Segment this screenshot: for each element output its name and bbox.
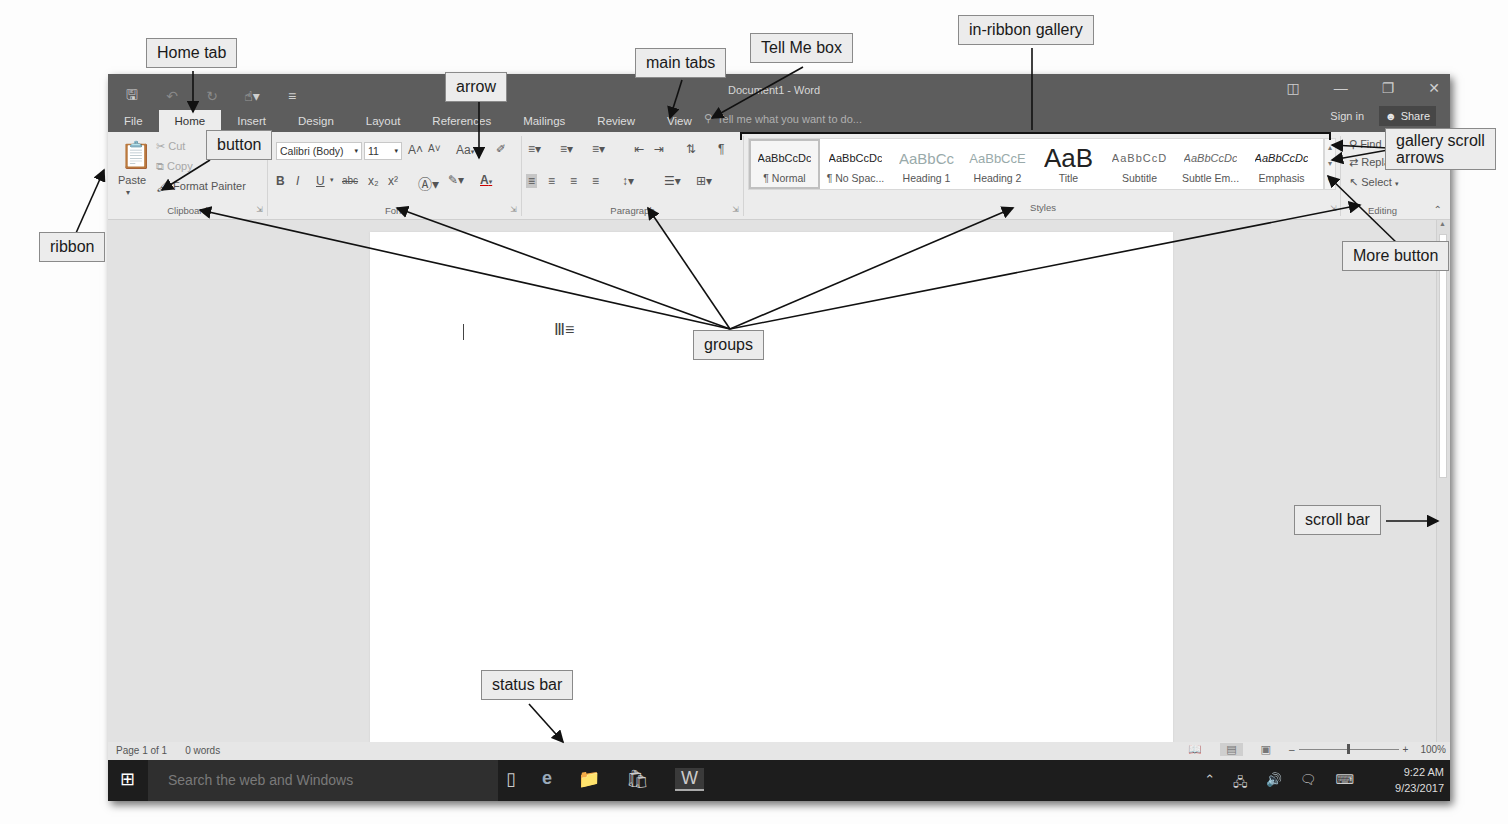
tab-review[interactable]: Review xyxy=(581,110,651,132)
align-left-icon[interactable]: ≡ xyxy=(526,174,537,188)
style-title[interactable]: AaB Title xyxy=(1033,139,1104,189)
paste-icon[interactable]: 📋 xyxy=(120,140,152,171)
ribbon-display-options-icon[interactable]: ◫ xyxy=(1286,80,1299,96)
style-subtle-emphasis[interactable]: AaBbCcDc Subtle Em... xyxy=(1175,139,1246,189)
word-count[interactable]: 0 words xyxy=(185,745,220,756)
underline-dropdown-icon[interactable]: ▾ xyxy=(330,176,334,184)
style-normal[interactable]: AaBbCcDc ¶ Normal xyxy=(749,139,820,189)
zoom-slider[interactable]: – + xyxy=(1289,744,1408,755)
network-icon[interactable]: 🖧 xyxy=(1233,772,1248,794)
redo-icon[interactable]: ↻ xyxy=(202,88,222,104)
gallery-scroll-up-icon[interactable]: ▴ xyxy=(1328,143,1332,152)
highlight-icon[interactable]: ✎▾ xyxy=(448,173,464,187)
style-emphasis[interactable]: AaBbCcDc Emphasis xyxy=(1246,139,1317,189)
tab-mailings[interactable]: Mailings xyxy=(507,110,581,132)
shading-icon[interactable]: ☰▾ xyxy=(664,174,681,188)
copy-button[interactable]: ⧉ Copy xyxy=(156,160,193,173)
paste-dropdown-icon[interactable]: ▾ xyxy=(126,188,130,197)
web-layout-icon[interactable]: ▣ xyxy=(1255,743,1277,756)
borders-icon[interactable]: ⊞▾ xyxy=(696,174,712,188)
italic-button[interactable]: I xyxy=(296,174,299,188)
bold-button[interactable]: B xyxy=(276,174,285,188)
zoom-in-icon[interactable]: + xyxy=(1403,744,1409,755)
clipboard-launcher-icon[interactable]: ⇲ xyxy=(256,205,263,214)
align-center-icon[interactable]: ≡ xyxy=(548,174,555,188)
gallery-scroll-down-icon[interactable]: ▾ xyxy=(1328,159,1332,168)
tell-me-box[interactable]: ⚲ Tell me what you want to do... xyxy=(704,112,862,125)
style-subtitle[interactable]: AaBbCcD Subtitle xyxy=(1104,139,1175,189)
font-launcher-icon[interactable]: ⇲ xyxy=(510,205,517,214)
taskbar-search-box[interactable]: Search the web and Windows xyxy=(148,760,498,801)
paste-button[interactable]: Paste xyxy=(118,174,146,186)
font-size-combo[interactable]: 11▾ xyxy=(364,142,402,160)
change-case-button[interactable]: Aa▾ xyxy=(456,143,474,157)
strikethrough-button[interactable]: abc xyxy=(342,175,358,186)
grow-font-icon[interactable]: A˄ xyxy=(408,143,423,157)
multilevel-list-icon[interactable]: ≡▾ xyxy=(592,142,605,156)
tab-layout[interactable]: Layout xyxy=(350,110,417,132)
share-button[interactable]: ☻ Share xyxy=(1379,106,1436,126)
style-heading-2[interactable]: AaBbCcE Heading 2 xyxy=(962,139,1033,189)
save-icon[interactable]: 🖫 xyxy=(122,84,142,108)
decrease-indent-icon[interactable]: ⇤ xyxy=(634,142,644,156)
store-icon[interactable]: 🛍 xyxy=(626,768,649,791)
font-name-combo[interactable]: Calibri (Body)▾ xyxy=(276,142,362,160)
zoom-knob[interactable] xyxy=(1347,744,1350,754)
shrink-font-icon[interactable]: A˅ xyxy=(428,143,441,154)
sign-in-link[interactable]: Sign in xyxy=(1330,110,1364,122)
format-painter-button[interactable]: 🖌 Format Painter xyxy=(156,180,246,193)
volume-icon[interactable]: 🔊 xyxy=(1266,772,1282,794)
print-layout-icon[interactable]: ▤ xyxy=(1220,743,1242,756)
find-button[interactable]: ⚲ Find xyxy=(1349,138,1382,151)
file-explorer-icon[interactable]: 📁 xyxy=(578,768,600,791)
underline-button[interactable]: U xyxy=(316,174,325,188)
touch-mode-icon[interactable]: ☝▾ xyxy=(242,88,262,104)
styles-launcher-icon[interactable]: ⇲ xyxy=(1330,204,1337,213)
word-app-icon[interactable]: W xyxy=(675,768,704,791)
close-icon[interactable]: ✕ xyxy=(1428,80,1440,96)
justify-icon[interactable]: ≡ xyxy=(592,174,599,188)
subscript-button[interactable]: x₂ xyxy=(368,174,379,188)
scroll-up-icon[interactable]: ▲ xyxy=(1439,220,1446,227)
restore-icon[interactable]: ❐ xyxy=(1382,80,1395,96)
numbering-icon[interactable]: ≡▾ xyxy=(560,142,573,156)
zoom-level[interactable]: 100% xyxy=(1420,744,1446,755)
zoom-out-icon[interactable]: – xyxy=(1289,744,1295,755)
collapse-ribbon-icon[interactable]: ⌃ xyxy=(1434,204,1442,215)
cut-button[interactable]: ✂ Cut xyxy=(156,140,185,153)
show-formatting-icon[interactable]: ¶ xyxy=(718,142,724,156)
show-hidden-icons-icon[interactable]: ⌃ xyxy=(1204,772,1215,794)
undo-icon[interactable]: ↶ xyxy=(162,88,182,104)
clear-formatting-icon[interactable]: ✐ xyxy=(496,142,506,156)
tab-view[interactable]: View xyxy=(651,110,708,132)
select-button[interactable]: ↖ Select ▾ xyxy=(1349,176,1398,189)
action-center-icon[interactable]: 🗨 xyxy=(1300,772,1317,794)
page-count[interactable]: Page 1 of 1 xyxy=(116,745,167,756)
superscript-button[interactable]: x² xyxy=(388,174,398,188)
sort-icon[interactable]: ⇅ xyxy=(686,142,696,156)
tab-home[interactable]: Home xyxy=(159,110,222,132)
read-mode-icon[interactable]: 📖 xyxy=(1182,743,1208,756)
tab-insert[interactable]: Insert xyxy=(221,110,282,132)
style-no-spacing[interactable]: AaBbCcDc ¶ No Spac... xyxy=(820,139,891,189)
tab-design[interactable]: Design xyxy=(282,110,350,132)
edge-browser-icon[interactable]: e xyxy=(542,768,552,791)
align-right-icon[interactable]: ≡ xyxy=(570,174,577,188)
gallery-more-icon[interactable]: ▼ xyxy=(1326,176,1334,185)
windows-start-icon[interactable]: ⊞ xyxy=(120,768,135,790)
font-color-button[interactable]: A▾ xyxy=(480,173,492,187)
vertical-scroll-bar[interactable]: ▲ xyxy=(1436,220,1450,742)
tab-file[interactable]: File xyxy=(108,110,159,132)
minimize-icon[interactable]: — xyxy=(1334,80,1348,96)
system-clock[interactable]: 9:22 AM 9/23/2017 xyxy=(1395,764,1444,796)
tab-references[interactable]: References xyxy=(416,110,507,132)
paragraph-launcher-icon[interactable]: ⇲ xyxy=(732,205,739,214)
bullets-icon[interactable]: ≡▾ xyxy=(528,142,541,156)
increase-indent-icon[interactable]: ⇥ xyxy=(654,142,664,156)
customize-qat-icon[interactable]: ≡ xyxy=(282,88,302,104)
task-view-icon[interactable]: ▯ xyxy=(506,768,516,791)
text-effects-icon[interactable]: Ⓐ▾ xyxy=(418,173,439,193)
line-spacing-icon[interactable]: ↕▾ xyxy=(622,174,634,188)
keyboard-icon[interactable]: ⌨ xyxy=(1335,772,1354,794)
style-heading-1[interactable]: AaBbCc Heading 1 xyxy=(891,139,962,189)
